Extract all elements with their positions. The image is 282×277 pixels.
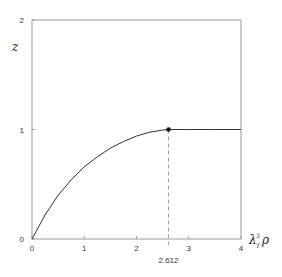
x-tick-label: 2 xyxy=(134,244,139,253)
x-tick-label: 4 xyxy=(239,244,244,253)
x-axis-label-sup: 3 xyxy=(256,232,260,239)
y-tick-label: 0 xyxy=(20,235,25,244)
chart: 01234012 2.612 z λ 3 T ρ xyxy=(0,0,282,277)
x-tick-label: 0 xyxy=(30,244,35,253)
y-tick-label: 1 xyxy=(20,126,25,135)
ticks: 01234012 xyxy=(20,16,244,253)
x-tick-label: 1 xyxy=(82,244,87,253)
y-axis-label: z xyxy=(11,40,19,54)
x-axis-label-sub: T xyxy=(256,242,261,249)
critical-point xyxy=(166,127,171,132)
x-tick-label: 3 xyxy=(187,244,192,253)
x-axis-label-tail: ρ xyxy=(261,233,269,247)
y-tick-label: 2 xyxy=(20,16,25,25)
series-line xyxy=(32,130,241,240)
critical-value-label: 2.612 xyxy=(158,256,179,265)
x-axis-label: λ 3 T ρ xyxy=(248,232,269,249)
